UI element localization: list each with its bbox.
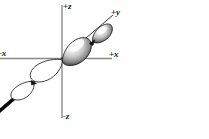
figure-background: [0, 0, 209, 139]
axis-label-minus-x: -x: [0, 49, 6, 58]
axis-label-plus-z: +z: [63, 2, 71, 11]
axis-label-minus-z: -z: [63, 112, 69, 121]
orbital-diagram-figure: +z -z +x -x +y: [0, 0, 209, 139]
axis-label-plus-y: +y: [111, 8, 120, 17]
axis-label-plus-x: +x: [109, 50, 118, 59]
orbital-diagram-canvas: [0, 0, 209, 139]
origin-point: [61, 58, 63, 60]
